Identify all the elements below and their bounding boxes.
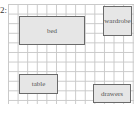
bed-block: bed xyxy=(19,16,85,45)
bed-label: bed xyxy=(47,27,57,35)
table-label: table xyxy=(32,80,46,88)
table-block: table xyxy=(19,74,58,94)
wardrobe-label: wardrobe xyxy=(104,17,130,25)
wardrobe-block: wardrobe xyxy=(103,6,132,36)
drawers-label: drawers xyxy=(101,90,123,98)
figure-label: 2: xyxy=(0,6,7,15)
drawers-block: drawers xyxy=(93,84,131,103)
